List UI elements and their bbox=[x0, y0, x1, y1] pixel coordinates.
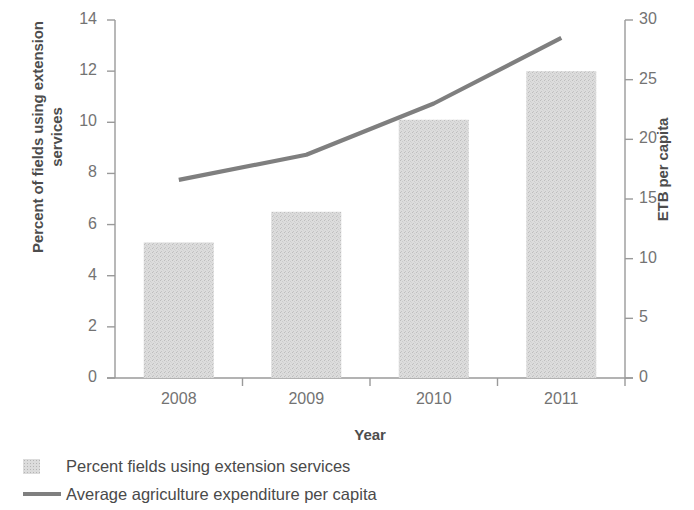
y-axis-left-tick-label: 4 bbox=[57, 266, 97, 284]
bar-2008 bbox=[144, 242, 214, 378]
legend-item-line: Average agriculture expenditure per capi… bbox=[18, 480, 678, 508]
y-axis-left-tick-label: 8 bbox=[57, 163, 97, 181]
x-axis-tick-label: 2010 bbox=[374, 390, 494, 408]
y-axis-right-tick-label: 30 bbox=[639, 10, 679, 28]
y-axis-left-tick-label: 2 bbox=[57, 317, 97, 335]
bar-2011 bbox=[526, 71, 596, 378]
plot-area bbox=[0, 0, 694, 510]
x-axis-tick-label: 2008 bbox=[119, 390, 239, 408]
y-axis-left-tick-label: 14 bbox=[57, 10, 97, 28]
bar-swatch-wrap bbox=[18, 459, 66, 474]
bar-2009 bbox=[271, 212, 341, 378]
expenditure-line bbox=[179, 38, 562, 180]
legend-label-line: Average agriculture expenditure per capi… bbox=[66, 484, 377, 504]
y-axis-right-tick-label: 15 bbox=[639, 189, 679, 207]
y-axis-left-tick-label: 0 bbox=[57, 368, 97, 386]
y-axis-left-tick-label: 12 bbox=[57, 61, 97, 79]
x-axis-tick-label: 2009 bbox=[246, 390, 366, 408]
line-swatch-icon bbox=[23, 492, 61, 496]
y-axis-right-tick-label: 25 bbox=[639, 70, 679, 88]
y-axis-right-tick-label: 20 bbox=[639, 129, 679, 147]
bar-series bbox=[144, 71, 597, 378]
y-axis-left-tick-label: 6 bbox=[57, 215, 97, 233]
chart-legend: Percent fields using extension services … bbox=[18, 452, 678, 508]
y-axis-right-tick-label: 5 bbox=[639, 308, 679, 326]
y-axis-right-tick-label: 10 bbox=[639, 249, 679, 267]
bar-2010 bbox=[399, 120, 469, 378]
line-series bbox=[179, 38, 562, 180]
y-axis-right-tick-label: 0 bbox=[639, 368, 679, 386]
line-swatch-wrap bbox=[18, 492, 66, 496]
y-axis-left-tick-label: 10 bbox=[57, 112, 97, 130]
x-axis-tick-label: 2011 bbox=[501, 390, 621, 408]
legend-item-bar: Percent fields using extension services bbox=[18, 452, 678, 480]
chart-figure: Percent of fields using extension servic… bbox=[0, 0, 694, 510]
legend-label-bar: Percent fields using extension services bbox=[66, 456, 350, 476]
bar-swatch-icon bbox=[23, 459, 40, 474]
